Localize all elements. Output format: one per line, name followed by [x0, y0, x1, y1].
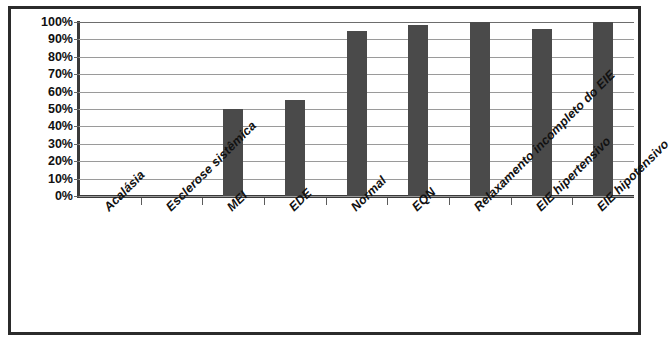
- bar: [223, 109, 243, 196]
- x-axis-tickmark: [264, 198, 265, 205]
- x-axis-tickmark: [326, 198, 327, 205]
- y-axis-tick-label: 30%: [13, 138, 73, 151]
- y-axis-tickmark: [74, 144, 79, 145]
- y-axis-tick-label: 90%: [13, 33, 73, 46]
- chart-frame: 100%90%80%70%60%50%40%30%20%10%0% Acalás…: [8, 6, 641, 335]
- y-axis-tick-label: 100%: [13, 16, 73, 29]
- y-axis-tick-label: 80%: [13, 51, 73, 64]
- x-axis-tickmark: [202, 198, 203, 205]
- y-axis-tickmark: [74, 22, 79, 23]
- y-axis-tickmark: [74, 126, 79, 127]
- y-axis-tickmark: [74, 161, 79, 162]
- bar: [593, 22, 613, 196]
- bar: [347, 31, 367, 196]
- y-axis-tickmark: [74, 57, 79, 58]
- y-axis-tick-label: 0%: [13, 190, 73, 203]
- y-axis-tickmark: [74, 196, 79, 197]
- x-axis-tickmark: [449, 198, 450, 205]
- y-axis-tickmark: [74, 179, 79, 180]
- bar: [470, 22, 490, 196]
- bar: [285, 100, 305, 196]
- y-axis-tick-label: 70%: [13, 68, 73, 81]
- x-axis-tickmark: [141, 198, 142, 205]
- y-axis-tickmark: [74, 92, 79, 93]
- y-axis-tick-label: 20%: [13, 155, 73, 168]
- y-axis-tickmark: [74, 109, 79, 110]
- x-axis-tickmark: [572, 198, 573, 205]
- y-axis-tick-label: 40%: [13, 120, 73, 133]
- y-axis-tick-label: 50%: [13, 103, 73, 116]
- y-axis-tickmark: [74, 39, 79, 40]
- plot-area: [79, 22, 634, 196]
- gridline: [79, 196, 634, 197]
- y-axis-tickmark: [74, 74, 79, 75]
- gridline: [79, 22, 634, 23]
- y-axis-tick-labels: 100%90%80%70%60%50%40%30%20%10%0%: [11, 22, 73, 196]
- y-axis-tick-label: 60%: [13, 85, 73, 98]
- bar: [532, 29, 552, 196]
- bar: [408, 25, 428, 196]
- x-axis-tickmark: [511, 198, 512, 205]
- y-axis-tick-label: 10%: [13, 172, 73, 185]
- x-axis-tickmark: [387, 198, 388, 205]
